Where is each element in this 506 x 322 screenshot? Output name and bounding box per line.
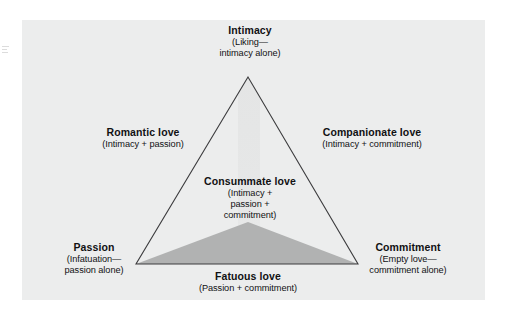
label-consummate-love: Consummate love (Intimacy + passion + co…	[190, 175, 310, 220]
triangular-theory-of-love-figure: Intimacy (Liking— intimacy alone) Romant…	[0, 0, 506, 322]
label-commitment-title: Commitment	[348, 241, 468, 253]
label-companionate-love-sub-1: (Intimacy + commitment)	[296, 139, 448, 150]
label-consummate-love-sub-2: passion +	[190, 199, 310, 210]
label-consummate-love-sub-3: commitment)	[190, 210, 310, 221]
label-romantic-love: Romantic love (Intimacy + passion)	[78, 126, 208, 150]
label-consummate-love-sub-1: (Intimacy +	[190, 188, 310, 199]
label-intimacy: Intimacy (Liking— intimacy alone)	[195, 24, 305, 59]
label-intimacy-sub-2: intimacy alone)	[195, 48, 305, 59]
label-consummate-love-title: Consummate love	[190, 175, 310, 187]
label-fatuous-love-title: Fatuous love	[178, 270, 318, 282]
label-companionate-love-title: Companionate love	[296, 126, 448, 138]
label-companionate-love: Companionate love (Intimacy + commitment…	[296, 126, 448, 150]
label-commitment: Commitment (Empty love— commitment alone…	[348, 241, 468, 276]
label-passion-sub-2: passion alone)	[44, 265, 144, 276]
label-romantic-love-title: Romantic love	[78, 126, 208, 138]
label-passion-sub-1: (Infatuation—	[44, 254, 144, 265]
label-romantic-love-sub-1: (Intimacy + passion)	[78, 139, 208, 150]
label-fatuous-love: Fatuous love (Passion + commitment)	[178, 270, 318, 294]
label-passion-title: Passion	[44, 241, 144, 253]
label-intimacy-sub-1: (Liking—	[195, 37, 305, 48]
label-passion: Passion (Infatuation— passion alone)	[44, 241, 144, 276]
label-commitment-sub-2: commitment alone)	[348, 265, 468, 276]
label-fatuous-love-sub-1: (Passion + commitment)	[178, 283, 318, 294]
label-intimacy-title: Intimacy	[195, 24, 305, 36]
inner-shaded-triangle	[136, 222, 358, 264]
label-commitment-sub-1: (Empty love—	[348, 254, 468, 265]
